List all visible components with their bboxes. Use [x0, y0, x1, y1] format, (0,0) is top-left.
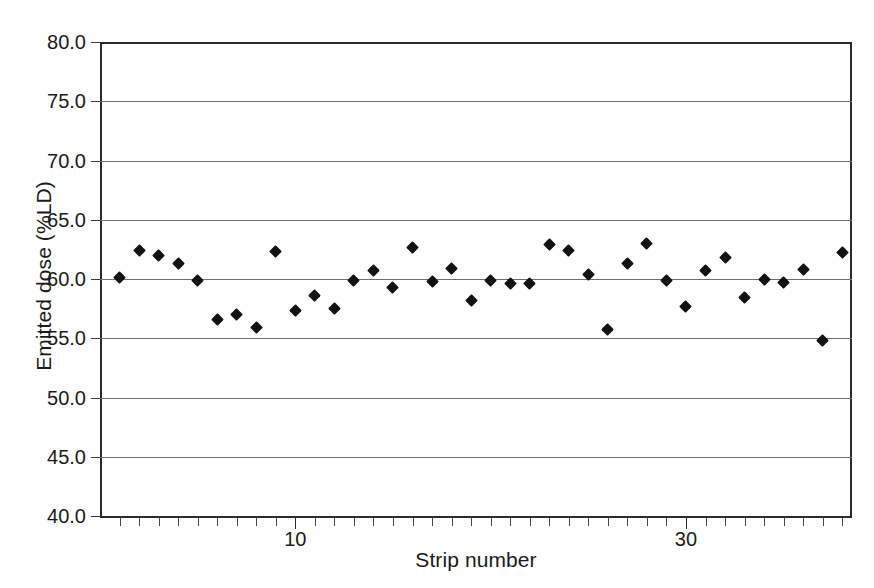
x-tick-mark-31 [706, 518, 707, 526]
y-tick-label-75.0: 75.0 [0, 91, 86, 111]
gridline-y-80.0 [100, 42, 852, 44]
plot-area [100, 42, 852, 516]
x-tick-mark-32 [725, 518, 726, 526]
x-tick-mark-1 [120, 518, 121, 526]
data-point [719, 251, 732, 264]
y-tick-label-45.0: 45.0 [0, 447, 86, 467]
gridline-y-65.0 [100, 220, 852, 221]
x-tick-mark-22 [530, 518, 531, 526]
data-point [426, 275, 439, 288]
x-tick-mark-38 [842, 518, 843, 526]
data-point [836, 247, 849, 260]
x-tick-mark-34 [764, 518, 765, 526]
gridline-y-75.0 [100, 101, 852, 102]
data-point [387, 281, 400, 294]
x-tick-mark-37 [823, 518, 824, 526]
data-point [562, 244, 575, 257]
x-tick-mark-29 [666, 518, 667, 526]
x-tick-mark-19 [471, 518, 472, 526]
gridline-y-60.0 [100, 279, 852, 280]
data-point [797, 263, 810, 276]
x-tick-mark-24 [569, 518, 570, 526]
x-tick-mark-5 [198, 518, 199, 526]
data-point [133, 244, 146, 257]
y-tick-mark-70.0 [91, 161, 100, 162]
x-tick-mark-23 [549, 518, 550, 526]
data-point [328, 302, 341, 315]
x-tick-mark-8 [256, 518, 257, 526]
x-tick-mark-18 [452, 518, 453, 526]
data-point [172, 257, 185, 270]
gridline-y-40.0 [100, 516, 852, 518]
x-tick-mark-36 [803, 518, 804, 526]
data-point [543, 238, 556, 251]
data-point [406, 241, 419, 254]
x-axis-title: Strip number [100, 548, 852, 572]
x-tick-mark-28 [647, 518, 648, 526]
data-point [211, 313, 224, 326]
data-point [699, 264, 712, 277]
x-tick-mark-7 [237, 518, 238, 526]
y-tick-label-70.0: 70.0 [0, 151, 86, 171]
x-tick-mark-13 [354, 518, 355, 526]
x-tick-mark-9 [276, 518, 277, 526]
x-tick-mark-12 [334, 518, 335, 526]
data-point [680, 300, 693, 313]
y-tick-label-65.0: 65.0 [0, 210, 86, 230]
x-tick-mark-6 [217, 518, 218, 526]
y-tick-mark-75.0 [91, 101, 100, 102]
gridline-y-70.0 [100, 161, 852, 162]
x-tick-mark-2 [139, 518, 140, 526]
scatter-chart-figure: Emitted dose (%LD) Strip number 40.045.0… [0, 0, 874, 588]
x-tick-mark-3 [159, 518, 160, 526]
y-tick-label-50.0: 50.0 [0, 388, 86, 408]
x-tick-mark-14 [373, 518, 374, 526]
data-point [445, 262, 458, 275]
y-tick-mark-80.0 [91, 42, 100, 43]
data-point [621, 257, 634, 270]
data-point [660, 274, 673, 287]
y-tick-mark-60.0 [91, 279, 100, 280]
x-tick-mark-27 [627, 518, 628, 526]
data-point [269, 245, 282, 258]
data-point [348, 274, 361, 287]
y-tick-mark-50.0 [91, 398, 100, 399]
x-tick-mark-15 [393, 518, 394, 526]
data-point [113, 271, 126, 284]
data-point [601, 324, 614, 337]
x-tick-mark-35 [784, 518, 785, 526]
x-tick-mark-17 [432, 518, 433, 526]
data-point [367, 264, 380, 277]
y-tick-label-40.0: 40.0 [0, 506, 86, 526]
data-point [816, 334, 829, 347]
gridline-y-45.0 [100, 457, 852, 458]
y-tick-label-55.0: 55.0 [0, 328, 86, 348]
data-point [250, 321, 263, 334]
x-tick-mark-33 [745, 518, 746, 526]
data-point [152, 249, 165, 262]
data-point [308, 289, 321, 302]
x-tick-mark-4 [178, 518, 179, 526]
y-tick-label-60.0: 60.0 [0, 269, 86, 289]
y-tick-mark-65.0 [91, 220, 100, 221]
x-tick-mark-21 [510, 518, 511, 526]
x-tick-label-30: 30 [656, 528, 716, 550]
data-point [191, 274, 204, 287]
y-tick-mark-55.0 [91, 338, 100, 339]
data-point [484, 274, 497, 287]
x-tick-label-10: 10 [265, 528, 325, 550]
gridline-y-50.0 [100, 398, 852, 399]
data-point [465, 294, 478, 307]
x-tick-mark-26 [608, 518, 609, 526]
x-tick-mark-25 [588, 518, 589, 526]
y-tick-label-80.0: 80.0 [0, 32, 86, 52]
data-point [758, 273, 771, 286]
data-point [230, 308, 243, 321]
gridline-y-55.0 [100, 338, 852, 339]
data-point [289, 305, 302, 318]
y-tick-mark-45.0 [91, 457, 100, 458]
data-point [641, 237, 654, 250]
x-tick-mark-16 [413, 518, 414, 526]
data-point [738, 292, 751, 305]
x-tick-mark-20 [491, 518, 492, 526]
